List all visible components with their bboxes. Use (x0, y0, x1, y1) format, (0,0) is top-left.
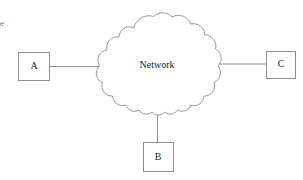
margin-glyph: e (0, 18, 4, 28)
node-b-label: B (155, 151, 162, 162)
node-a-label: A (30, 60, 38, 71)
diagram-canvas: e Network A B C (0, 0, 303, 180)
node-c-label: C (278, 58, 285, 69)
network-topology-diagram: e Network A B C (0, 0, 303, 180)
network-cloud-label: Network (140, 59, 175, 70)
